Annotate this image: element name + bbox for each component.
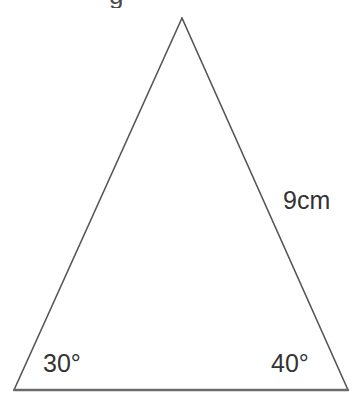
angle-label-bottom-right: 40° [271, 351, 309, 376]
triangle-left-side [14, 18, 182, 390]
triangle-figure-canvas: g 9cm 30° 40° [0, 0, 362, 410]
side-length-label-9cm: 9cm [283, 188, 330, 213]
angle-label-bottom-left: 30° [43, 351, 81, 376]
